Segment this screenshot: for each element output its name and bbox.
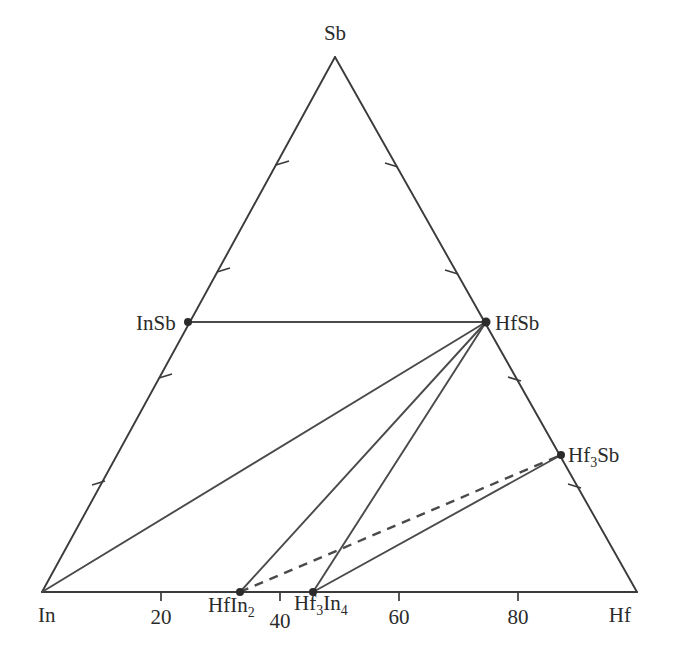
phase-label-hf3in4-base: Hf	[294, 591, 316, 615]
phase-point-hfsb[interactable]	[482, 318, 491, 327]
axis-tick-label-20: 20	[151, 605, 172, 629]
triangle-edges	[42, 57, 637, 592]
tie-line-hf3in4-hfsb	[313, 322, 486, 592]
phase-points	[184, 318, 565, 597]
phase-point-insb[interactable]	[184, 318, 192, 326]
tie-line-hfin2-hfsb	[240, 322, 486, 592]
phase-label-hf3in4-sub: 3	[316, 603, 323, 618]
phase-label-insb: InSb	[136, 311, 176, 335]
phase-label-hf3sb-sub: 3	[590, 455, 597, 470]
phase-label-hf3sb-tail: Sb	[597, 443, 619, 467]
corner-label-hf: Hf	[609, 603, 631, 627]
phase-label-hfsb: HfSb	[495, 311, 539, 335]
tick-right-80	[568, 484, 581, 488]
phase-label-hf3sb: Hf3Sb	[568, 443, 619, 470]
ternary-diagram-canvas: Sb In Hf 20 40 60 80 InSb HfSb Hf3Sb HfI…	[0, 0, 681, 671]
phase-label-hfsb-base: HfSb	[495, 311, 539, 335]
phase-label-hf3sb-base: Hf	[568, 443, 590, 467]
tick-left-20	[92, 481, 105, 485]
phase-label-hf3in4: Hf3In4	[294, 591, 348, 618]
axis-tick-label-80: 80	[508, 605, 529, 629]
phase-point-hf3sb[interactable]	[557, 451, 565, 459]
tie-line-in-hfsb	[42, 322, 486, 592]
dashed-tie-lines	[240, 455, 561, 592]
phase-label-hf3in4-tail-sub: 4	[341, 603, 348, 618]
tick-right-60	[508, 377, 521, 381]
axis-tick-label-60: 60	[389, 605, 410, 629]
phase-label-hf3in4-tail: In	[323, 591, 341, 615]
tie-lines	[42, 322, 561, 592]
tie-line-hf3in4-hf3sb	[313, 455, 561, 592]
phase-label-hfin2: HfIn2	[208, 593, 255, 620]
axis-tick-label-40: 40	[270, 609, 291, 633]
tie-line-hfin2-hf3sb-dashed	[240, 455, 561, 592]
ternary-phase-diagram: Sb In Hf 20 40 60 80 InSb HfSb Hf3Sb HfI…	[0, 0, 681, 671]
phase-label-hfin2-base: HfIn	[208, 593, 248, 617]
corner-label-in: In	[38, 603, 56, 627]
phase-label-insb-base: InSb	[136, 311, 176, 335]
corner-label-sb: Sb	[324, 21, 346, 45]
phase-label-hfin2-sub: 2	[248, 605, 255, 620]
